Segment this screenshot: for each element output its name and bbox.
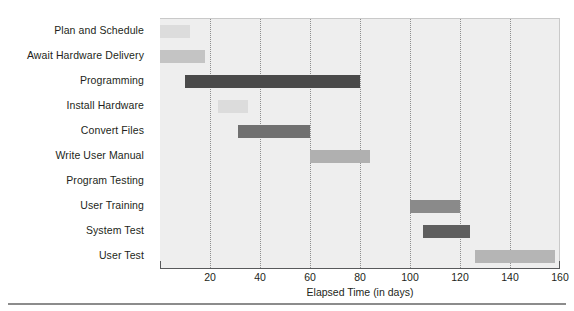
- x-axis-line: [160, 268, 560, 269]
- x-axis-title: Elapsed Time (in days): [160, 286, 560, 298]
- task-label: Program Testing: [0, 175, 144, 186]
- gantt-bar: [238, 125, 311, 138]
- task-label: Programming: [0, 75, 144, 86]
- task-label: Convert Files: [0, 125, 144, 136]
- gridline-80: [360, 19, 361, 268]
- task-label: User Test: [0, 250, 144, 261]
- x-axis-left-cap: [160, 261, 161, 269]
- bottom-divider-rule: [8, 303, 566, 305]
- gantt-bar: [160, 25, 190, 38]
- gantt-plot-inner: [160, 19, 559, 268]
- gridline-100: [410, 19, 411, 268]
- x-tick-label-140: 140: [490, 271, 530, 283]
- x-tick-label-80: 80: [340, 271, 380, 283]
- x-tick-label-120: 120: [440, 271, 480, 283]
- x-axis-right-cap: [559, 261, 560, 269]
- gantt-bar: [475, 250, 555, 263]
- gantt-bar: [310, 150, 370, 163]
- gridline-40: [260, 19, 261, 268]
- x-tick-label-40: 40: [240, 271, 280, 283]
- gantt-bar: [185, 75, 360, 88]
- task-label: Install Hardware: [0, 100, 144, 111]
- gantt-bar: [218, 100, 248, 113]
- x-tick-label-160: 160: [540, 271, 574, 283]
- x-tick-label-20: 20: [190, 271, 230, 283]
- gantt-plot-area: [160, 18, 560, 268]
- gridline-140: [510, 19, 511, 268]
- task-label: Write User Manual: [0, 150, 144, 161]
- x-tick-label-100: 100: [390, 271, 430, 283]
- task-label: User Training: [0, 200, 144, 211]
- gantt-chart-figure: Plan and ScheduleAwait Hardware Delivery…: [0, 0, 574, 311]
- gantt-bar: [160, 50, 205, 63]
- x-tick-label-60: 60: [290, 271, 330, 283]
- task-label-axis: Plan and ScheduleAwait Hardware Delivery…: [0, 18, 152, 268]
- gantt-bar: [423, 225, 471, 238]
- gridline-20: [210, 19, 211, 268]
- task-label: Plan and Schedule: [0, 25, 144, 36]
- task-label: Await Hardware Delivery: [0, 50, 144, 61]
- gridline-60: [310, 19, 311, 268]
- task-label: System Test: [0, 225, 144, 236]
- gantt-bar: [410, 200, 460, 213]
